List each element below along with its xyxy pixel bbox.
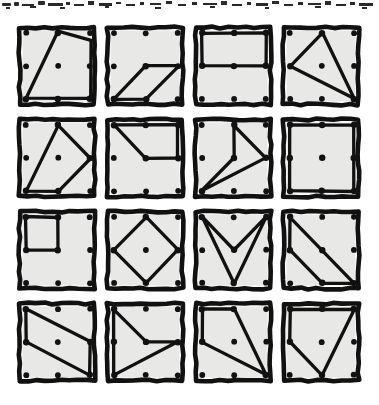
peg-dot[interactable] (199, 214, 205, 220)
peg-dot[interactable] (199, 280, 205, 286)
peg-dot[interactable] (111, 122, 117, 128)
peg-dot[interactable] (351, 280, 357, 286)
peg-dot[interactable] (199, 63, 205, 69)
peg-dot[interactable] (23, 372, 29, 378)
peg-dot[interactable] (319, 214, 325, 220)
peg-dot[interactable] (87, 214, 93, 220)
peg-dot[interactable] (55, 214, 61, 220)
peg-dot[interactable] (87, 372, 93, 378)
peg-dot[interactable] (231, 30, 237, 36)
peg-dot[interactable] (111, 30, 117, 36)
peg-dot[interactable] (111, 339, 117, 345)
peg-dot[interactable] (55, 372, 61, 378)
geoboard-card[interactable]: pentagon (14, 114, 100, 206)
peg-dot[interactable] (55, 30, 61, 36)
peg-dot[interactable] (87, 247, 93, 253)
peg-dot[interactable] (319, 96, 325, 102)
peg-dot[interactable] (23, 339, 29, 345)
peg-dot[interactable] (55, 339, 61, 345)
peg-dot[interactable] (199, 96, 205, 102)
peg-dot[interactable] (351, 122, 357, 128)
peg-dot[interactable] (231, 122, 237, 128)
peg-dot[interactable] (143, 280, 149, 286)
peg-dot[interactable] (23, 30, 29, 36)
peg-dot[interactable] (351, 306, 357, 312)
peg-dot[interactable] (199, 30, 205, 36)
peg-dot[interactable] (143, 96, 149, 102)
geoboard-card[interactable]: square-full-perimeter (278, 114, 364, 206)
peg-dot[interactable] (55, 96, 61, 102)
peg-dot[interactable] (111, 63, 117, 69)
peg-dot[interactable] (175, 247, 181, 253)
peg-dot[interactable] (87, 188, 93, 194)
geoboard-card[interactable]: wide-slanted-parallelogram (14, 298, 100, 390)
peg-dot[interactable] (351, 30, 357, 36)
peg-dot[interactable] (55, 306, 61, 312)
peg-dot[interactable] (231, 188, 237, 194)
peg-dot[interactable] (319, 339, 325, 345)
peg-dot[interactable] (87, 63, 93, 69)
peg-dot[interactable] (287, 280, 293, 286)
peg-dot[interactable] (287, 306, 293, 312)
peg-dot[interactable] (23, 188, 29, 194)
geoboard-card[interactable]: quadrilateral-upper-with-notch (102, 114, 188, 206)
peg-dot[interactable] (287, 339, 293, 345)
peg-dot[interactable] (199, 155, 205, 161)
peg-dot[interactable] (199, 306, 205, 312)
peg-dot[interactable] (319, 372, 325, 378)
geoboard-card[interactable]: arrow-chevron-pointing-left (278, 22, 364, 114)
peg-dot[interactable] (111, 214, 117, 220)
geoboard-card[interactable]: parallelogram (102, 22, 188, 114)
peg-dot[interactable] (351, 188, 357, 194)
peg-dot[interactable] (319, 306, 325, 312)
peg-dot[interactable] (199, 247, 205, 253)
peg-dot[interactable] (55, 247, 61, 253)
peg-dot[interactable] (263, 188, 269, 194)
peg-dot[interactable] (23, 306, 29, 312)
peg-dot[interactable] (175, 63, 181, 69)
peg-dot[interactable] (231, 214, 237, 220)
peg-dot[interactable] (263, 339, 269, 345)
peg-dot[interactable] (143, 122, 149, 128)
peg-dot[interactable] (263, 372, 269, 378)
peg-dot[interactable] (231, 63, 237, 69)
peg-dot[interactable] (287, 188, 293, 194)
peg-dot[interactable] (55, 188, 61, 194)
geoboard-card[interactable]: quadrilateral-slanted (190, 298, 276, 390)
peg-dot[interactable] (319, 30, 325, 36)
peg-dot[interactable] (263, 96, 269, 102)
peg-dot[interactable] (175, 155, 181, 161)
peg-dot[interactable] (351, 247, 357, 253)
peg-dot[interactable] (23, 280, 29, 286)
peg-dot[interactable] (199, 339, 205, 345)
peg-dot[interactable] (263, 280, 269, 286)
peg-dot[interactable] (143, 155, 149, 161)
peg-dot[interactable] (143, 306, 149, 312)
peg-dot[interactable] (175, 188, 181, 194)
peg-dot[interactable] (23, 122, 29, 128)
peg-dot[interactable] (351, 96, 357, 102)
peg-dot[interactable] (175, 96, 181, 102)
peg-dot[interactable] (111, 372, 117, 378)
peg-dot[interactable] (55, 280, 61, 286)
peg-dot[interactable] (111, 306, 117, 312)
peg-dot[interactable] (87, 122, 93, 128)
peg-dot[interactable] (143, 63, 149, 69)
peg-dot[interactable] (319, 122, 325, 128)
peg-dot[interactable] (175, 30, 181, 36)
peg-dot[interactable] (287, 247, 293, 253)
peg-dot[interactable] (231, 96, 237, 102)
peg-dot[interactable] (143, 247, 149, 253)
peg-dot[interactable] (87, 306, 93, 312)
peg-dot[interactable] (319, 63, 325, 69)
peg-dot[interactable] (87, 30, 93, 36)
peg-dot[interactable] (111, 280, 117, 286)
geoboard-card[interactable]: v-chevron-pointing-down (190, 206, 276, 298)
peg-dot[interactable] (87, 339, 93, 345)
peg-dot[interactable] (263, 306, 269, 312)
geoboard-card[interactable]: arrow-chevron-pointing-left (190, 114, 276, 206)
peg-dot[interactable] (351, 63, 357, 69)
peg-dot[interactable] (263, 155, 269, 161)
peg-dot[interactable] (287, 30, 293, 36)
peg-dot[interactable] (23, 214, 29, 220)
